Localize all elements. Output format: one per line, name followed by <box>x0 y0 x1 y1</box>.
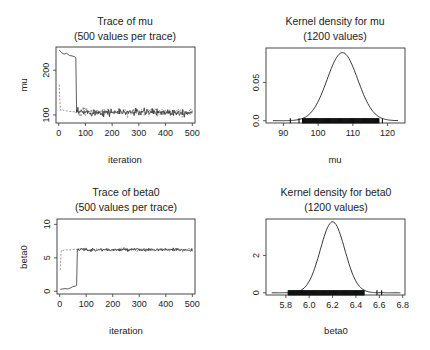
x-tick-label: 6.6 <box>373 300 386 310</box>
panel-density-mu: Kernel density for mu (1200 values) 9010… <box>251 15 405 165</box>
x-tick-label: 500 <box>185 299 200 309</box>
y-tick-label: 10 <box>42 219 52 229</box>
density-curve <box>273 53 398 121</box>
panel-trace-mu: Trace of mu (500 values per trace) 01002… <box>18 15 200 165</box>
y-tick-label: 2 <box>251 253 261 258</box>
panel-density-beta0: Kernel density for beta0 (1200 values) 5… <box>251 186 409 336</box>
x-tick-label: 400 <box>158 299 173 309</box>
x-tick-label: 110 <box>346 128 360 138</box>
chart-title: Trace of beta0 <box>92 186 159 198</box>
mcmc-diagnostics-figure: Trace of mu (500 values per trace) 01002… <box>0 0 430 350</box>
y-axis-label: beta0 <box>18 245 29 269</box>
density-curve <box>272 222 401 293</box>
chart-subtitle: (500 values per trace) <box>75 201 177 213</box>
chart-title: Kernel density for mu <box>285 15 384 27</box>
x-tick-label: 300 <box>131 128 146 138</box>
x-tick-label: 0 <box>56 128 61 138</box>
y-tick-label: 200 <box>41 63 51 78</box>
x-axis-label: iteration <box>108 154 142 165</box>
rug-marks <box>290 118 382 123</box>
y-tick-label: 5 <box>42 255 52 260</box>
y-axis-label: mu <box>18 78 29 91</box>
rug-marks <box>288 290 381 295</box>
x-tick-label: 120 <box>380 128 395 138</box>
x-tick-label: 100 <box>311 128 326 138</box>
x-axis-label: mu <box>328 154 341 165</box>
x-tick-label: 100 <box>78 128 93 138</box>
x-tick-label: 6.4 <box>350 300 363 310</box>
x-tick-label: 300 <box>132 299 147 309</box>
trace-line-chain-1 <box>60 248 192 290</box>
y-tick-label: 0.0 <box>251 114 261 127</box>
chart-subtitle: (1200 values) <box>304 201 368 213</box>
x-tick-label: 200 <box>105 299 120 309</box>
x-tick-label: 0 <box>57 299 62 309</box>
x-tick-label: 100 <box>79 299 94 309</box>
x-tick-label: 5.8 <box>280 300 293 310</box>
plot-area: 5.86.06.26.46.66.802 <box>251 219 409 310</box>
plot-area: 01002003004005000510 <box>42 219 200 309</box>
x-tick-label: 6.2 <box>326 300 339 310</box>
y-tick-label: 0 <box>42 289 52 294</box>
x-tick-label: 500 <box>185 128 200 138</box>
chart-title: Trace of mu <box>97 15 153 27</box>
plot-area: 901001101200.00.05 <box>251 48 405 138</box>
x-axis-label: beta0 <box>324 325 348 336</box>
plot-frame <box>266 219 405 295</box>
panel-trace-beta0: Trace of beta0 (500 values per trace) 01… <box>18 186 200 336</box>
y-tick-label: 100 <box>41 107 51 122</box>
chart-subtitle: (1200 values) <box>303 30 367 42</box>
trace-line-chain-2 <box>60 248 192 270</box>
y-tick-label: 0 <box>251 290 261 295</box>
y-tick-label: 0.05 <box>251 74 261 92</box>
plot-frame <box>57 219 195 294</box>
chart-title: Kernel density for beta0 <box>281 186 392 198</box>
x-axis-label: iteration <box>109 325 143 336</box>
x-tick-label: 200 <box>105 128 120 138</box>
plot-area: 0100200300400500100200 <box>41 47 200 138</box>
chart-subtitle: (500 values per trace) <box>74 30 176 42</box>
trace-line-chain-1 <box>59 50 192 117</box>
x-tick-label: 400 <box>158 128 173 138</box>
x-tick-label: 6.8 <box>396 300 409 310</box>
x-tick-label: 90 <box>278 128 288 138</box>
x-tick-label: 6.0 <box>303 300 316 310</box>
